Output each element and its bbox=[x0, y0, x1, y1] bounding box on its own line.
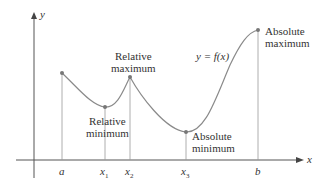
point-absolute-minimum bbox=[184, 130, 188, 134]
point-absolute-maximum bbox=[256, 28, 260, 32]
tick-label-a: a bbox=[59, 165, 65, 177]
tick-label-x1: x1 bbox=[100, 165, 108, 182]
point-relative-maximum bbox=[128, 75, 132, 79]
curve-label: y = f(x) bbox=[196, 50, 229, 62]
point-a bbox=[60, 71, 64, 75]
relative-minimum-label: Relative minimum bbox=[86, 115, 129, 139]
absolute-minimum-label: Absolute minimum bbox=[192, 130, 235, 154]
tick-label-x2: x2 bbox=[125, 165, 133, 182]
tick-label-b: b bbox=[255, 165, 261, 177]
tick-label-x3: x3 bbox=[181, 165, 189, 182]
y-axis-arrow-icon bbox=[31, 12, 37, 19]
y-axis-label: y bbox=[40, 8, 45, 20]
point-relative-minimum bbox=[103, 105, 107, 109]
x-axis-label: x bbox=[307, 153, 312, 165]
relative-maximum-label: Relative maximum bbox=[111, 50, 156, 74]
absolute-maximum-label: Absolute maximum bbox=[265, 25, 310, 49]
x-axis-arrow-icon bbox=[296, 157, 304, 163]
